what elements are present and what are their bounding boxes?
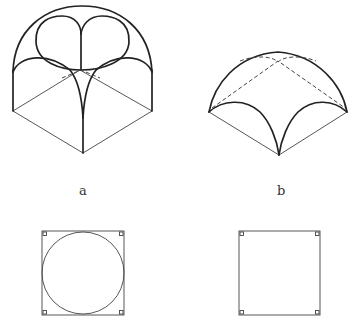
figure-a-plan-circle — [42, 232, 124, 314]
figure-b-label: b — [277, 183, 285, 198]
corner-marker — [43, 232, 47, 236]
figure-a-plan — [42, 231, 124, 315]
corner-marker — [240, 232, 244, 236]
corner-marker — [120, 311, 124, 315]
corner-marker — [316, 311, 320, 315]
corner-marker — [120, 232, 124, 236]
figure-a-label: a — [79, 183, 87, 198]
figure-a-axonometric — [13, 6, 152, 153]
figure-a-right-arch — [83, 58, 152, 118]
figure-b-plan — [239, 231, 320, 315]
figure-b-left-arch — [209, 102, 279, 155]
figure-b-right-arch — [279, 102, 347, 155]
figure-a-right-lobe — [81, 16, 129, 70]
corner-marker — [43, 311, 47, 315]
figure-a-left-arch — [13, 58, 83, 118]
figure-a-outer-dome — [13, 6, 152, 72]
corner-marker — [240, 311, 244, 315]
corner-marker — [316, 232, 320, 236]
diagram-canvas: a b — [0, 0, 357, 324]
figure-b-plan-square — [239, 231, 320, 315]
figure-b-axonometric — [209, 52, 347, 155]
figure-b-hidden-base — [212, 61, 345, 108]
